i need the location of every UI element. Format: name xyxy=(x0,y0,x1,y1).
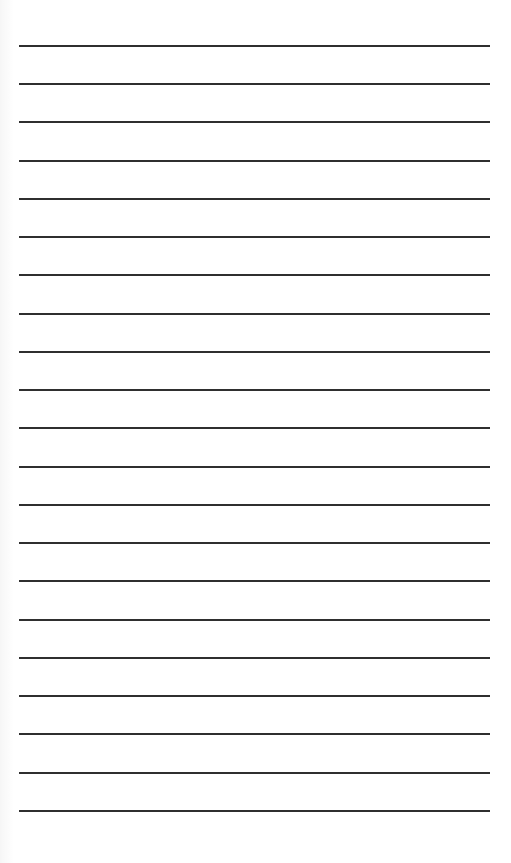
ruled-line xyxy=(19,313,490,315)
ruled-line xyxy=(19,542,490,544)
ruled-line xyxy=(19,695,490,697)
ruled-line xyxy=(19,121,490,123)
ruled-line xyxy=(19,772,490,774)
ruled-line xyxy=(19,619,490,621)
ruled-paper-page xyxy=(0,0,511,863)
ruled-line xyxy=(19,427,490,429)
ruled-line xyxy=(19,160,490,162)
ruled-line xyxy=(19,83,490,85)
ruled-line xyxy=(19,466,490,468)
paper-edge-shadow xyxy=(0,0,14,863)
ruled-line xyxy=(19,504,490,506)
ruled-line xyxy=(19,236,490,238)
ruled-line xyxy=(19,389,490,391)
ruled-line xyxy=(19,274,490,276)
ruled-line xyxy=(19,657,490,659)
ruled-line xyxy=(19,733,490,735)
ruled-line xyxy=(19,580,490,582)
ruled-line xyxy=(19,351,490,353)
ruled-line xyxy=(19,810,490,812)
ruled-line xyxy=(19,198,490,200)
ruled-line xyxy=(19,45,490,47)
